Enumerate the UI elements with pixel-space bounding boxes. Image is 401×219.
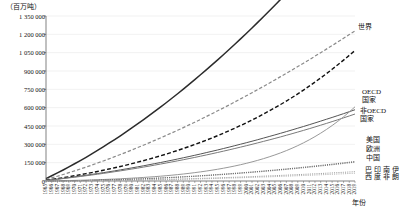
series-label-brazil: 巴西 [364,166,371,180]
series-label-usa: 美国 [366,136,380,144]
x-axis-tick-labels: 1965196619671968196919701971197219731974… [0,0,401,219]
series-label-india: 印度 [373,166,380,180]
series-label-oecd2: 国家 [362,96,376,104]
series-label-world: 世界 [358,23,372,31]
series-label-nonoecd: 非OECD [360,107,386,115]
x-tick-label: 1996 [221,184,226,194]
x-tick-label: 2019 [352,184,357,194]
series-label-europe: 欧洲 [366,145,380,153]
x-axis-title: 年份 [352,197,366,207]
x-tick-label: 2014 [324,184,329,194]
series-label-china: 中国 [366,154,380,162]
x-tick-label: 1978 [118,184,123,194]
chart-container: （百万吨） 1 350 0001 200 0001 050 000900 000… [0,0,401,219]
series-label-iran: 伊朗 [391,166,398,180]
series-label-southafrica: 南非 [382,166,389,180]
series-label-nonoecd2: 国家 [360,115,374,123]
series-label-oecd: OECD [362,88,381,96]
